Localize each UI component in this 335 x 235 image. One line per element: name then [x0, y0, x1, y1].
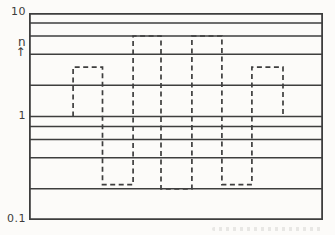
scan-artifact — [212, 227, 322, 231]
y-tick-label-10: 10 — [2, 6, 26, 17]
plot-area — [29, 13, 323, 220]
waveform-plot — [29, 13, 323, 220]
y-tick-label-1: 1 — [2, 110, 26, 121]
up-arrow-icon: ↑ — [2, 47, 26, 58]
y-tick-label-0-1: 0.1 — [2, 213, 26, 224]
log-scale-square-wave-figure: 10 n ↑ 1 0.1 — [0, 0, 335, 235]
